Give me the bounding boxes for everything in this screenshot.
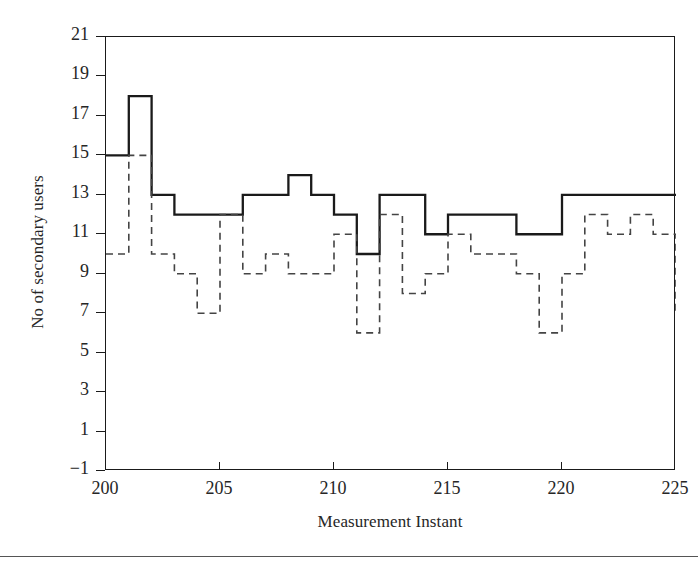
y-tick-label: 11 [27, 222, 89, 240]
chart-figure: No of secondary users −11357911131517192… [0, 0, 698, 569]
y-tick-mark [96, 75, 105, 76]
solid-series-line [106, 96, 676, 254]
x-tick-mark [447, 462, 448, 470]
y-tick-label: 5 [27, 341, 89, 359]
x-tick-label: 215 [407, 478, 487, 499]
y-tick-label: 1 [27, 420, 89, 438]
x-tick-label: 225 [635, 478, 698, 499]
x-tick-label: 220 [521, 478, 601, 499]
y-tick-mark [96, 233, 105, 234]
y-tick-mark [96, 194, 105, 195]
y-tick-label: 9 [27, 262, 89, 280]
x-axis-title: Measurement Instant [105, 512, 675, 532]
y-tick-label: 17 [27, 104, 89, 122]
y-tick-label: −1 [27, 459, 89, 477]
x-tick-mark [333, 462, 334, 470]
y-tick-label: 21 [27, 25, 89, 43]
y-tick-mark [96, 352, 105, 353]
x-tick-label: 200 [65, 478, 145, 499]
y-tick-mark [96, 115, 105, 116]
page-divider [0, 556, 698, 557]
y-tick-label: 3 [27, 380, 89, 398]
x-tick-label: 205 [179, 478, 259, 499]
x-tick-mark [561, 462, 562, 470]
y-tick-mark [96, 391, 105, 392]
chart-lines [106, 37, 676, 471]
x-tick-mark [219, 462, 220, 470]
y-tick-mark [96, 273, 105, 274]
y-tick-mark [96, 431, 105, 432]
y-tick-label: 7 [27, 301, 89, 319]
y-tick-mark [96, 312, 105, 313]
dashed-series-line [106, 155, 676, 333]
y-tick-label: 19 [27, 64, 89, 82]
plot-area [105, 36, 675, 470]
y-tick-mark [96, 154, 105, 155]
y-tick-mark [96, 470, 105, 471]
y-tick-mark [96, 36, 105, 37]
y-tick-label: 15 [27, 143, 89, 161]
y-tick-label: 13 [27, 183, 89, 201]
x-tick-label: 210 [293, 478, 373, 499]
